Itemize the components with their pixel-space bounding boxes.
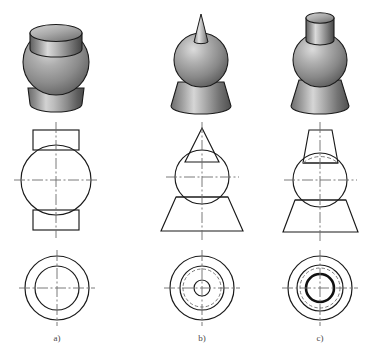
caption-b: b): [198, 333, 206, 343]
top-cylinder-cap-a: [30, 25, 82, 42]
pictorial-solid-a: [23, 25, 89, 113]
caption-a: a): [54, 333, 61, 343]
caption-c: c): [317, 333, 324, 343]
figure-canvas: a) b) c): [0, 0, 377, 354]
technical-drawing-figure: a) b) c): [0, 0, 377, 354]
top-cylinder-cap-c: [306, 13, 334, 23]
